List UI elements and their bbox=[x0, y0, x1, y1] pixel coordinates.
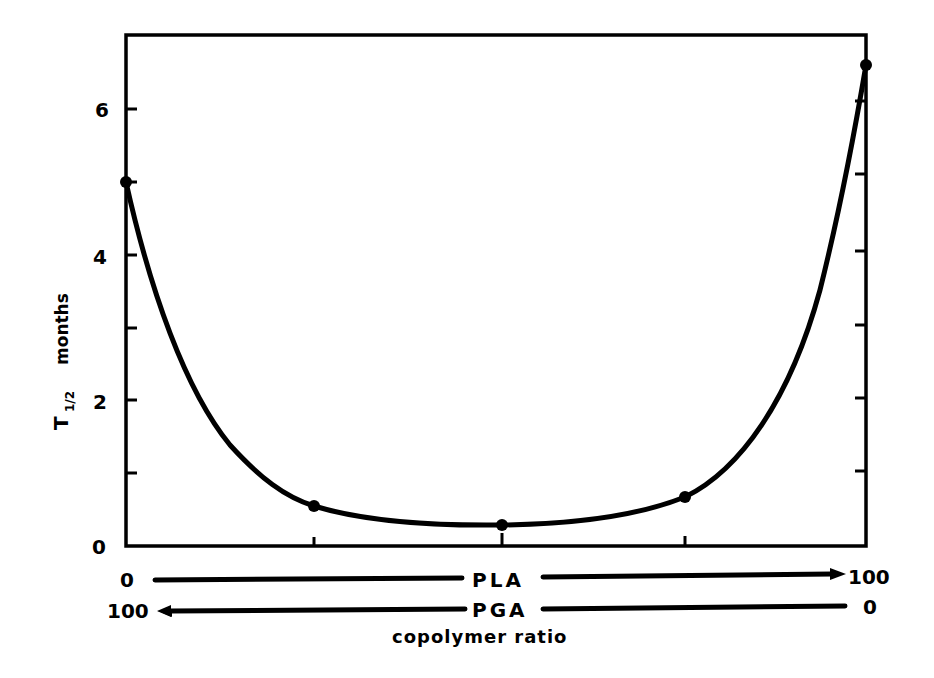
pga-label: PGA bbox=[472, 598, 528, 622]
data-point-100 bbox=[860, 59, 872, 71]
y-axis-label-main: T bbox=[49, 416, 73, 430]
data-point-25 bbox=[308, 500, 320, 512]
x-axis-label: copolymer ratio bbox=[392, 626, 567, 647]
pga-end-label: 0 bbox=[863, 595, 877, 619]
data-curve bbox=[126, 65, 866, 525]
pla-label: PLA bbox=[472, 568, 524, 592]
y-axis-label: T 1/2 months bbox=[49, 293, 77, 430]
data-points bbox=[120, 59, 872, 531]
pga-start-label: 100 bbox=[107, 599, 149, 623]
pla-arrow-head bbox=[830, 568, 846, 580]
y-tick-label-0: 0 bbox=[92, 535, 106, 559]
pla-start-label: 0 bbox=[120, 568, 134, 592]
data-point-75 bbox=[679, 491, 691, 503]
pga-arrow-line-right bbox=[543, 606, 845, 609]
y-tick-label-2: 2 bbox=[93, 390, 107, 414]
y-axis-label-unit: months bbox=[52, 293, 72, 365]
chart: 6 4 2 0 T 1/2 months 0 PLA 100 100 PGA 0… bbox=[0, 0, 934, 678]
pga-arrow-line-left bbox=[170, 609, 465, 611]
pla-arrow-line-left bbox=[155, 578, 462, 580]
data-point-50 bbox=[496, 519, 508, 531]
y-axis-label-subscript: 1/2 bbox=[63, 391, 77, 412]
plot-frame bbox=[126, 35, 866, 546]
y-tick-label-4: 4 bbox=[93, 245, 107, 269]
pla-end-label: 100 bbox=[848, 565, 890, 589]
y-tick-label-6: 6 bbox=[95, 98, 109, 122]
data-point-0 bbox=[120, 176, 132, 188]
pla-arrow-line-right bbox=[543, 574, 832, 577]
x-ticks bbox=[314, 533, 685, 546]
